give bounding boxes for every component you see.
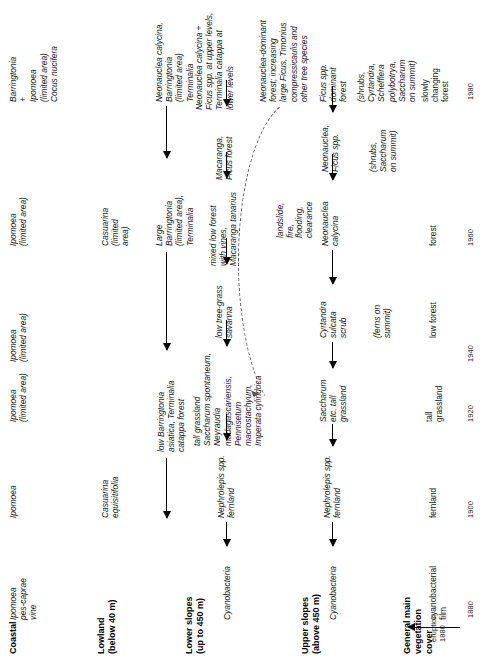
cell-coastal-1880: Ipomoeapes-capraevine	[8, 550, 39, 620]
note-ferns-on-summit: (ferns onsummit)	[372, 268, 392, 338]
cell-coastal-1980: Barringtonia+Ipomoea(limited area)Cocus …	[8, 12, 59, 102]
cell-upper-1880: Cyanobacteria	[328, 550, 338, 620]
zone-header-upper-slopes: Upper slopes(above 450 m)	[300, 594, 322, 654]
cell-lowland-1920: low Barringtoniaasiatica, Terminaliacata…	[156, 356, 187, 452]
cell-cover-1940: low forest	[428, 268, 438, 338]
arrow-upper-1960-1970	[332, 154, 333, 180]
note-shrubs-cyrtandra-summit: (shrubs,Cyrtandra,Schefflerapolybotrya,S…	[356, 24, 417, 102]
arrow-upper-1920-1940	[332, 342, 333, 368]
arrow-upper-1940-1960	[332, 250, 333, 284]
year-label-1920: 1920	[466, 405, 475, 422]
cell-coastal-1940: Ipomoea(limited area)	[8, 284, 28, 362]
arrow-upper-1900-1920	[332, 424, 333, 446]
cell-upper-1960: Neonaucleacalycina	[320, 176, 340, 246]
arrow-lowland-1900-1920	[166, 458, 167, 518]
cell-coastal-1900: Ipomoea	[8, 448, 18, 518]
note-shrubs-saccharum-summit: (shrubs,Saccharumon summit)	[368, 100, 399, 172]
cell-lowland-1960-large: LargeBarringtonia(limited area),Terminal…	[154, 162, 195, 246]
zone-header-lowland: Lowland(below 40 m)	[96, 599, 118, 654]
cell-lower-1970: Neonauclea calycina +Ficus spp. at upper…	[194, 10, 235, 110]
zone-header-coastal: Coastal	[8, 621, 19, 654]
year-label-1900: 1900	[466, 501, 475, 518]
cell-cover-1900: fernland	[428, 448, 438, 518]
cell-lower-1950: mixed low forestwith vines,Macaranga tan…	[208, 182, 239, 266]
cell-lower-1880: Cyanobacteria	[222, 550, 232, 620]
arrow-lower-1940-1950	[226, 238, 227, 264]
disturbance-label: landslide,fire,flooding,clearance	[276, 164, 314, 238]
arrow-lowland-1960-1980	[166, 106, 167, 158]
cell-cover-1980: slowlychangingforest	[420, 28, 451, 102]
cell-lowland-1900: Casuarinaequisitifolia	[100, 438, 120, 518]
cell-lowland-1980: Neonauclea calycina,Barringtonia(limited…	[154, 6, 195, 102]
cell-upper-1900: Nephrolepis spp.fernland	[322, 444, 342, 518]
arrow-lower-1880-1900	[226, 522, 227, 546]
succession-diagram: Coastal Lowland(below 40 m) Lower slopes…	[0, 0, 483, 658]
arrow-lowland-1920-1960	[166, 252, 167, 350]
cell-lower-1980: Neonauclea-dominantforest; increasinglar…	[258, 2, 309, 102]
cell-coastal-1960: Ipomoea(limited area)	[8, 168, 28, 246]
cell-lower-1940: low tree-grasssavanna	[214, 268, 234, 338]
arrow-lower-1950-1960	[226, 152, 227, 178]
cell-cover-1960: forest	[428, 176, 438, 246]
arrow-lower-1920-1940	[226, 320, 227, 346]
zone-header-lower-slopes: Lower slopes(up to 450 m)	[184, 596, 206, 654]
cell-upper-1980: Ficus spp.dominantforest	[318, 32, 349, 102]
cell-lower-1960: Macaranga,Ficus forest	[214, 110, 234, 180]
year-label-1880: 1880	[466, 601, 475, 618]
year-label-1980: 1980	[466, 83, 475, 100]
year-label-1960: 1960	[466, 229, 475, 246]
arrow-lower-1960-1970	[226, 80, 227, 106]
arrow-lower-1900-1920	[226, 414, 227, 440]
diagram-grid: Coastal Lowland(below 40 m) Lower slopes…	[0, 0, 483, 658]
cell-cover-1920: tallgrassland	[424, 352, 444, 422]
arrow-upper-1970-1980	[332, 86, 333, 112]
cell-lower-1900: Nephrolepis spp.fernland	[216, 444, 236, 518]
arrow-upper-1880-1900	[332, 522, 333, 546]
cell-lowland-1960: Casuarina(limitedarea)	[100, 176, 131, 246]
year-label-1940: 1940	[466, 345, 475, 362]
cell-cover-1880: cyanobacterialfilm	[428, 548, 448, 620]
